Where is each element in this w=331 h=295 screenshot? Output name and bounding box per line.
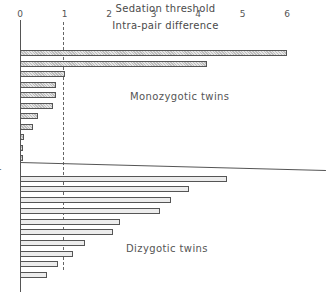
bar-monozygotic: [20, 113, 38, 119]
bar-dizygotic: [20, 208, 160, 214]
bar-dizygotic: [20, 251, 73, 257]
bar-dizygotic: [20, 197, 171, 203]
bar-monozygotic: [20, 145, 23, 151]
bar-dizygotic: [20, 229, 113, 235]
bar-dizygotic: [20, 219, 120, 225]
bar-monozygotic: [20, 103, 53, 109]
x-tick-label: 3: [151, 9, 157, 19]
bar-monozygotic: [20, 92, 56, 98]
bar-monozygotic: [20, 124, 33, 130]
label-dizygotic: Dizygotic twins: [126, 243, 208, 254]
bar-dizygotic: [20, 261, 58, 267]
bar-dizygotic: [20, 176, 227, 182]
bar-monozygotic: [20, 61, 207, 67]
x-tick-label: 4: [195, 9, 201, 19]
x-tick-label: 2: [106, 9, 112, 19]
bar-monozygotic: [20, 82, 56, 88]
chart-title: Sedation threshold: [0, 3, 331, 14]
bar-dizygotic: [20, 186, 189, 192]
y-axis-label: Twin pairs: [0, 146, 1, 196]
x-tick-label: 0: [17, 9, 23, 19]
bar-dizygotic: [20, 272, 47, 278]
bar-monozygotic: [20, 50, 287, 56]
x-tick-label: 5: [240, 9, 246, 19]
bar-monozygotic: [20, 71, 65, 77]
x-tick-label: 1: [62, 9, 68, 19]
bar-monozygotic: [20, 134, 24, 140]
bar-dizygotic-offscale: [20, 162, 326, 171]
x-tick-label: 6: [284, 9, 290, 19]
chart-subtitle: Intra-pair difference: [0, 20, 331, 31]
bar-monozygotic: [20, 155, 23, 161]
bar-dizygotic: [20, 240, 85, 246]
label-monozygotic: Monozygotic twins: [130, 91, 229, 102]
